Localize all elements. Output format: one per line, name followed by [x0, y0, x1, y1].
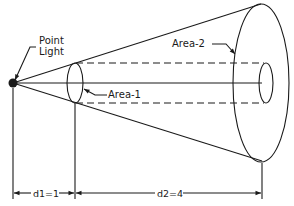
area2-label: Area-2 — [172, 38, 205, 49]
inverse-square-diagram: Point Light Area-1 Area-2 d1=1 d2=4 — [0, 0, 294, 206]
d1-label: d1=1 — [33, 188, 59, 199]
area1-leader — [84, 89, 107, 95]
point-light-source — [9, 79, 18, 88]
area1-label: Area-1 — [108, 89, 141, 100]
point-light-label-line1: Point — [39, 35, 64, 46]
d2-label: d2=4 — [157, 188, 183, 199]
area2-leader — [212, 44, 235, 54]
point-light-label-line2: Light — [39, 46, 64, 57]
point-light-leader — [15, 47, 36, 80]
